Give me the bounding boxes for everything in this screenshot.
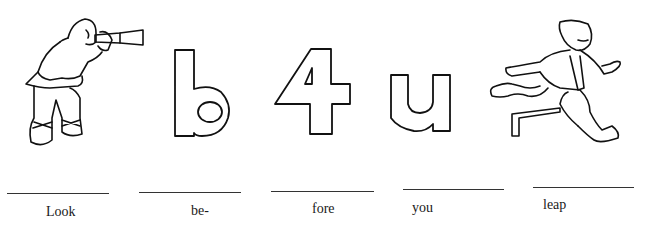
label-fore: fore: [312, 201, 335, 217]
leaping-man-icon: [491, 20, 621, 141]
label-look: Look: [46, 204, 76, 220]
answer-line-2: [139, 192, 241, 193]
answer-line-5: [533, 187, 634, 188]
letter-u-outline: [391, 75, 450, 131]
label-you: you: [412, 200, 433, 216]
answer-line-3: [271, 191, 374, 192]
answer-line-1: [7, 193, 109, 194]
telescope-man-icon: [26, 19, 143, 145]
number-4-outline: [275, 49, 350, 134]
label-leap: leap: [543, 197, 566, 213]
answer-line-4: [403, 189, 504, 190]
number-4-hole: [305, 68, 312, 84]
letter-b-outline: [175, 50, 229, 136]
label-be: be-: [191, 203, 209, 219]
letter-b-bowl: [198, 102, 222, 122]
